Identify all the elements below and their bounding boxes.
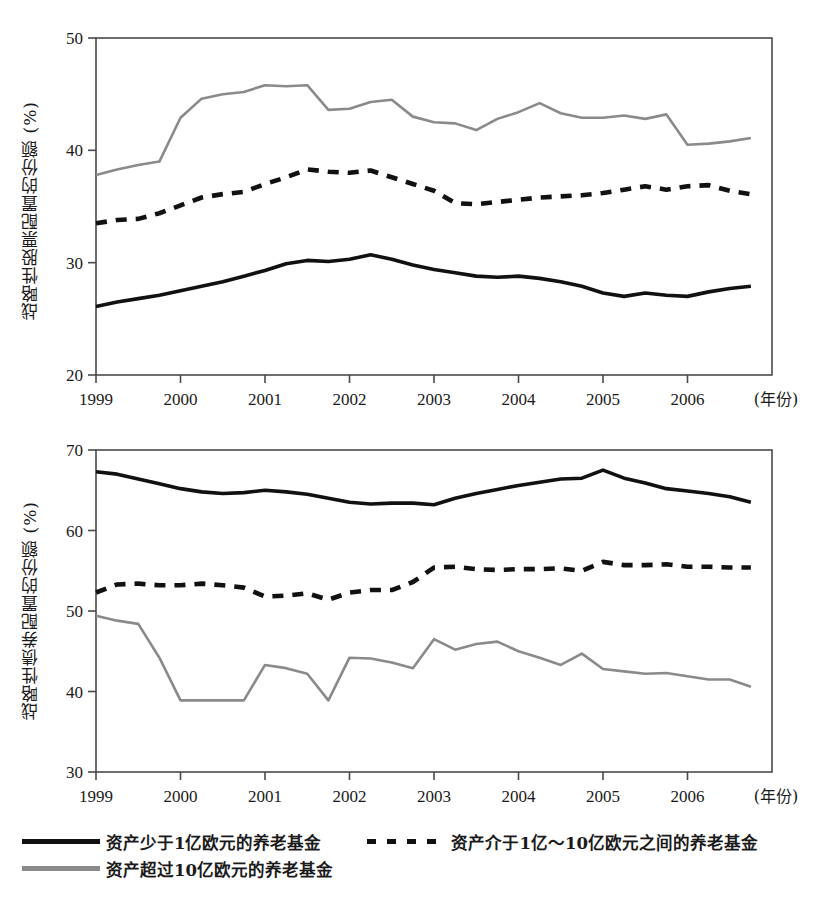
x-tick-label: 2004	[502, 787, 537, 806]
legend-line-solid-black-icon	[22, 835, 100, 849]
legend-row-1: 资产少于1亿欧元的养老基金 资产介于1亿～10亿欧元之间的养老基金	[22, 828, 822, 855]
chart-bond-allocation: 战略性债券配置的份额 (%) 3040506070199920002001200…	[0, 420, 825, 820]
x-tick-label: 2002	[333, 787, 367, 806]
legend-row-2: 资产超过10亿欧元的养老基金	[22, 855, 822, 882]
bond-chart-canvas: 3040506070199920002001200220032004200520…	[0, 420, 825, 820]
y-tick-label: 70	[66, 441, 83, 460]
x-tick-label: 2001	[248, 390, 282, 409]
y-tick-label: 30	[66, 254, 83, 273]
y-tick-label: 40	[66, 141, 83, 160]
y-tick-label: 50	[66, 29, 83, 48]
x-tick-label: 2003	[417, 390, 451, 409]
x-tick-label: 2000	[164, 787, 198, 806]
x-tick-label: 2006	[671, 390, 705, 409]
y-axis-label-equity: 战略性股票配置的份额 (%)	[14, 40, 44, 380]
figure-root: 战略性股票配置的份额 (%) 2030405019992000200120022…	[0, 0, 825, 900]
series-line-0	[96, 255, 751, 307]
x-tick-label: 2001	[248, 787, 282, 806]
legend-line-dashed-black-icon	[367, 835, 445, 849]
y-tick-label: 40	[66, 683, 83, 702]
y-axis-label-bond: 战略性债券配置的份额 (%)	[14, 440, 44, 780]
y-tick-label: 20	[66, 366, 83, 385]
x-tick-label: 2002	[333, 390, 367, 409]
chart-equity-allocation: 战略性股票配置的份额 (%) 2030405019992000200120022…	[0, 0, 825, 420]
y-axis-label-equity-text: 战略性股票配置的份额 (%)	[17, 101, 42, 320]
legend: 资产少于1亿欧元的养老基金 资产介于1亿～10亿欧元之间的养老基金 资产超过10…	[22, 828, 822, 882]
legend-item-mid-funds: 资产介于1亿～10亿欧元之间的养老基金	[367, 830, 757, 854]
x-tick-label: 1999	[79, 390, 113, 409]
series-line-2	[96, 616, 751, 701]
x-axis-unit-label: (年份)	[754, 787, 798, 806]
y-tick-label: 60	[66, 522, 83, 541]
plot-frame	[96, 450, 772, 772]
plot-frame	[96, 38, 772, 375]
x-tick-label: 2005	[586, 787, 620, 806]
legend-label-mid-funds: 资产介于1亿～10亿欧元之间的养老基金	[451, 830, 757, 854]
legend-label-large-funds: 资产超过10亿欧元的养老基金	[106, 857, 333, 881]
legend-label-small-funds: 资产少于1亿欧元的养老基金	[106, 830, 321, 854]
x-tick-label: 2000	[164, 390, 198, 409]
series-line-1	[96, 562, 751, 600]
x-axis-unit-label: (年份)	[754, 390, 798, 409]
legend-line-solid-gray-icon	[22, 862, 100, 876]
x-tick-label: 2005	[586, 390, 620, 409]
legend-item-large-funds: 资产超过10亿欧元的养老基金	[22, 857, 333, 881]
series-line-2	[96, 85, 751, 175]
x-tick-label: 1999	[79, 787, 113, 806]
x-tick-label: 2004	[502, 390, 537, 409]
y-axis-label-bond-text: 战略性债券配置的份额 (%)	[17, 501, 42, 720]
x-tick-label: 2003	[417, 787, 451, 806]
y-tick-label: 30	[66, 763, 83, 782]
x-tick-label: 2006	[671, 787, 705, 806]
legend-item-small-funds: 资产少于1亿欧元的养老基金	[22, 830, 321, 854]
equity-chart-canvas: 2030405019992000200120022003200420052006…	[0, 0, 825, 420]
y-tick-label: 50	[66, 602, 83, 621]
series-line-1	[96, 169, 751, 223]
series-line-0	[96, 470, 751, 505]
